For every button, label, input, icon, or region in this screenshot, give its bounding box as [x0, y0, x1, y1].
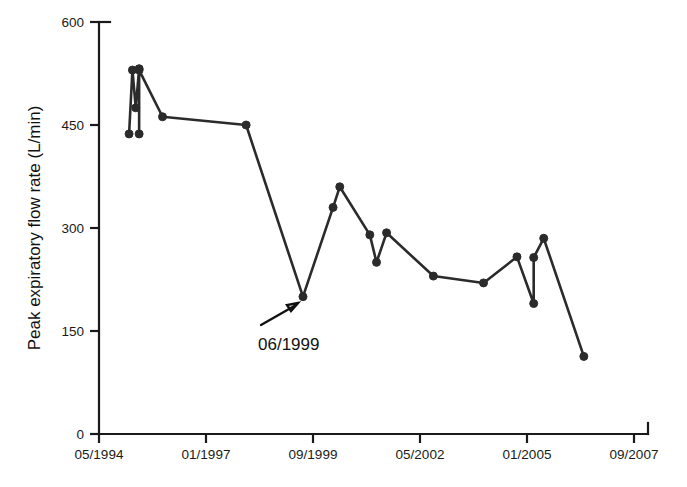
annotation-arrow-shaft [261, 305, 296, 325]
data-point [299, 293, 307, 301]
data-point [125, 130, 133, 138]
x-tick-label: 01/2005 [503, 447, 552, 462]
data-point [513, 253, 521, 261]
y-tick-150: 150 [61, 324, 99, 339]
chart-figure: 600 450 300 150 0 05/1994 [0, 0, 687, 487]
x-tick-label: 09/2007 [610, 447, 659, 462]
y-tick-600: 600 [61, 15, 99, 30]
y-tick-label: 300 [61, 221, 84, 236]
y-tick-0: 0 [76, 427, 99, 442]
data-series [125, 65, 588, 361]
data-point [135, 130, 143, 138]
data-point [530, 254, 538, 262]
y-ticks-group: 600 450 300 150 0 [61, 15, 99, 442]
x-tick-label: 01/1997 [182, 447, 231, 462]
data-point [530, 300, 538, 308]
data-point [329, 203, 337, 211]
y-tick-300: 300 [61, 221, 99, 236]
data-point [336, 183, 344, 191]
y-axis-title: Peak expiratory flow rate (L/min) [25, 106, 44, 351]
data-point [135, 66, 143, 74]
data-point [132, 104, 140, 112]
x-tick-2: 09/1999 [289, 434, 338, 462]
data-point [429, 272, 437, 280]
annotation-label: 06/1999 [258, 335, 319, 354]
data-point [159, 113, 167, 121]
data-point [383, 229, 391, 237]
data-point [366, 231, 374, 239]
data-point [540, 234, 548, 242]
x-tick-label: 09/1999 [289, 447, 338, 462]
y-tick-label: 150 [61, 324, 84, 339]
x-tick-5: 09/2007 [610, 434, 659, 462]
axes-group [99, 22, 648, 434]
y-tick-label: 0 [76, 427, 84, 442]
y-tick-label: 600 [61, 15, 84, 30]
x-tick-3: 05/2002 [396, 434, 445, 462]
y-tick-label: 450 [61, 118, 84, 133]
drop-annotation: 06/1999 [258, 303, 319, 354]
y-tick-450: 450 [61, 118, 99, 133]
x-tick-label: 05/2002 [396, 447, 445, 462]
data-point [242, 121, 250, 129]
x-tick-1: 01/1997 [182, 434, 231, 462]
data-point [480, 279, 488, 287]
series-line [129, 69, 584, 357]
chart-canvas: 600 450 300 150 0 05/1994 [0, 0, 687, 487]
data-point [373, 258, 381, 266]
x-ticks-group: 05/1994 01/1997 09/1999 05/2002 01/2005 … [75, 434, 659, 462]
x-tick-4: 01/2005 [503, 434, 552, 462]
x-tick-label: 05/1994 [75, 447, 124, 462]
data-point [580, 352, 588, 360]
